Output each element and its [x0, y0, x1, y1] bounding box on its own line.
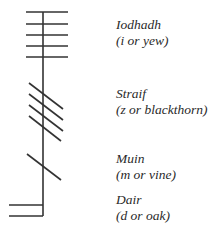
label-straif: Straif (z or blackthorn)	[116, 86, 208, 118]
letter-name: Muin	[116, 151, 176, 167]
letter-meaning: (d or oak)	[116, 208, 170, 224]
letter-meaning: (i or yew)	[116, 33, 168, 49]
label-iodhadh: Iodhadh (i or yew)	[116, 17, 168, 49]
letter-meaning: (z or blackthorn)	[116, 102, 208, 118]
letter-name: Dair	[116, 192, 170, 208]
dair-glyph	[9, 205, 43, 216]
straif-glyph	[29, 83, 63, 141]
letter-meaning: (m or vine)	[116, 167, 176, 183]
muin-glyph	[27, 154, 61, 180]
ogham-diagram	[0, 0, 208, 239]
letter-name: Straif	[116, 86, 208, 102]
letter-name: Iodhadh	[116, 17, 168, 33]
iodhadh-glyph	[26, 12, 68, 57]
label-muin: Muin (m or vine)	[116, 151, 176, 183]
label-dair: Dair (d or oak)	[116, 192, 170, 224]
